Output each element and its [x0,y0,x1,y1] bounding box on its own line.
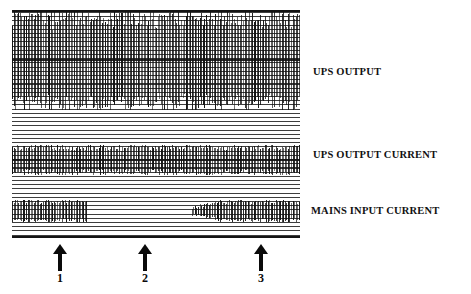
event-marker-2-label: 2 [134,272,156,285]
frame-top [12,10,300,12]
event-marker-1-label: 1 [49,272,71,285]
event-marker-3: 3 [250,244,272,294]
frame-bottom [12,236,300,238]
arrow-up-icon [53,244,67,254]
arrow-shaft [58,254,62,271]
arrow-shaft [259,254,263,271]
event-marker-1: 1 [49,244,71,294]
arrow-shaft [143,254,147,271]
label-ups-output-current: UPS OUTPUT CURRENT [313,149,437,160]
trace-mains-input-current [12,200,300,222]
arrow-up-icon [138,244,152,254]
label-mains-input-current: MAINS INPUT CURRENT [311,205,439,216]
arrow-up-icon [254,244,268,254]
chart-recorder-strip [12,10,300,238]
trace-ups-output [12,10,300,110]
trace-ups-output-current [12,145,300,175]
event-marker-2: 2 [134,244,156,294]
event-marker-3-label: 3 [250,272,272,285]
label-ups-output: UPS OUTPUT [313,66,381,77]
